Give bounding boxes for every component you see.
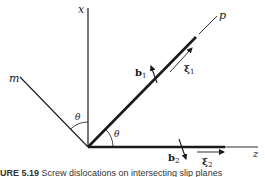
theta-label-upper: θ	[75, 112, 81, 122]
caption-text: Screw dislocations on intersecting slip …	[42, 169, 223, 177]
theta-label-lower: θ	[114, 129, 120, 139]
figure-number: URE 5.19	[0, 169, 39, 177]
m-axis-label: m	[9, 72, 19, 85]
b2-subscript: 2	[175, 157, 179, 165]
xi2-label: ξ2	[202, 156, 212, 169]
theta-arc-upper	[71, 122, 89, 129]
figure-caption: URE 5.19 Screw dislocations on intersect…	[0, 169, 265, 177]
p-line-thin	[199, 16, 217, 34]
b2-arrow	[179, 139, 186, 159]
xi2-subscript: 2	[208, 161, 212, 169]
theta-arc-lower	[106, 129, 114, 147]
p-line-thick	[88, 37, 196, 147]
xi1-label: ξ1	[184, 63, 194, 76]
x-axis-label: x	[78, 3, 85, 16]
b1-subscript: 1	[142, 72, 146, 80]
b1-label: b1	[135, 67, 146, 80]
b2-label: b2	[168, 152, 179, 165]
xi1-subscript: 1	[190, 68, 194, 76]
b2-symbol: b	[168, 152, 175, 163]
p-axis-label: p	[219, 9, 226, 22]
dislocation-diagram: x m p z θ θ b1 ξ1 b2 ξ2	[0, 0, 265, 177]
b1-symbol: b	[135, 67, 142, 78]
z-axis-label: z	[252, 148, 259, 159]
